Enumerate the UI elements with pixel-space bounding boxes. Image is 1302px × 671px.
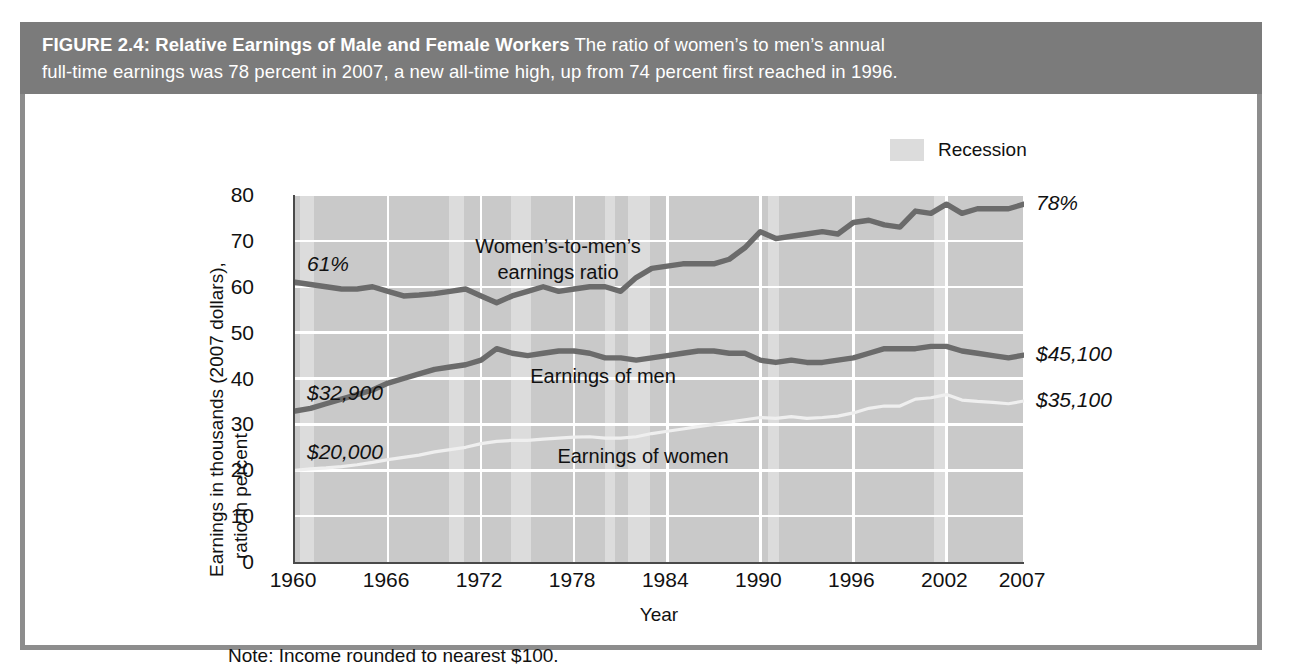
value-annotation: $32,900 [307,381,383,405]
recession-legend-swatch [890,139,924,161]
figure-header-line-1: FIGURE 2.4: Relative Earnings of Male an… [42,31,1244,58]
y-tick-label: 20 [174,458,254,482]
chart-area: Recession Earnings in thousands (2007 do… [20,94,1262,650]
x-tick-label: 2007 [999,568,1046,592]
y-tick-label: 0 [174,550,254,574]
x-tick-label: 1960 [270,568,317,592]
figure-note: Note: Income rounded to nearest $100. [228,645,559,667]
value-annotation: $45,100 [1036,342,1112,366]
y-tick-label: 30 [174,412,254,436]
figure-title: Relative Earnings of Male and Female Wor… [155,34,569,55]
x-axis-title: Year [640,604,678,626]
figure-number: FIGURE 2.4: [42,34,150,55]
x-tick-label: 1996 [828,568,875,592]
series-label: Earnings of men [493,363,713,389]
y-tick-label: 60 [174,275,254,299]
y-axis-title-line-2: ratio in percent [230,433,252,559]
figure-caption-line-1: The ratio of women’s to men’s annual [574,34,884,55]
y-tick-label: 80 [174,183,254,207]
x-tick-label: 2002 [921,568,968,592]
chart-legend: Recession [890,139,1027,161]
y-tick-label: 70 [174,229,254,253]
value-annotation: 61% [307,252,349,276]
figure-caption-line-2: full-time earnings was 78 percent in 200… [42,58,1244,85]
series-label-line: Women’s-to-men’s [443,233,673,259]
figure-header: FIGURE 2.4: Relative Earnings of Male an… [20,22,1262,94]
series-label: Earnings of women [523,443,763,469]
recession-legend-label: Recession [938,139,1027,161]
value-annotation: $35,100 [1036,388,1112,412]
x-tick-label: 1990 [735,568,782,592]
x-tick-label: 1966 [363,568,410,592]
value-annotation: 78% [1036,191,1078,215]
y-tick-label: 40 [174,367,254,391]
x-tick-label: 1972 [456,568,503,592]
x-tick-label: 1984 [642,568,689,592]
series-label: Women’s-to-men’searnings ratio [443,233,673,285]
series-label-line: earnings ratio [443,259,673,285]
y-tick-label: 50 [174,321,254,345]
x-tick-label: 1978 [549,568,596,592]
figure-container: FIGURE 2.4: Relative Earnings of Male an… [20,22,1262,650]
value-annotation: $20,000 [307,440,383,464]
y-tick-label: 10 [174,504,254,528]
